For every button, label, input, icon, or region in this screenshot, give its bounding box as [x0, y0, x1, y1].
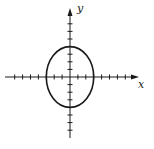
ellipse-diagram: x y — [0, 0, 154, 149]
y-axis-label: y — [76, 2, 84, 15]
x-axis-label: x — [138, 78, 145, 91]
y-axis-arrow-icon — [68, 8, 73, 16]
y-axis — [68, 8, 73, 138]
x-axis — [5, 75, 139, 80]
